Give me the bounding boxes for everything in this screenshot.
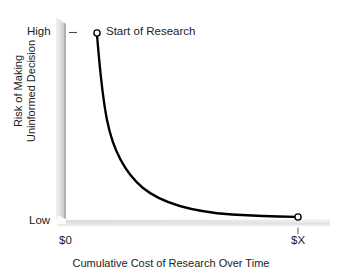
x-axis-bottom-edge [57, 225, 330, 226]
risk-decay-line [97, 35, 296, 217]
y-axis-edge [64, 23, 66, 219]
data-curve [97, 35, 296, 217]
x-axis-seam [57, 221, 330, 222]
x-axis-tick-label-max: $X [291, 235, 305, 247]
y-axis-tick-label-low: Low [29, 215, 50, 227]
x-axis-title: Cumulative Cost of Research Over Time [0, 258, 342, 269]
start-of-research-annotation: Start of Research [106, 26, 195, 38]
tick-marks [69, 33, 298, 235]
start-of-research-marker [94, 30, 100, 36]
y-axis-title-line1: Risk of Making [12, 16, 25, 166]
y-axis-face [57, 18, 65, 219]
y-axis-left-edge [56, 19, 57, 219]
chart-container: High Low $0 $X Risk of Making Uninformed… [0, 0, 342, 279]
y-axis-title: Risk of Making Uninformed Decision [12, 16, 38, 166]
x-axis-face [57, 219, 330, 226]
y-axis-title-line2: Uninformed Decision [25, 16, 38, 166]
end-of-research-marker [295, 214, 301, 220]
x-axis-tick-label-zero: $0 [59, 235, 72, 247]
curve-markers [94, 30, 301, 220]
y-axis-slab [56, 18, 66, 219]
